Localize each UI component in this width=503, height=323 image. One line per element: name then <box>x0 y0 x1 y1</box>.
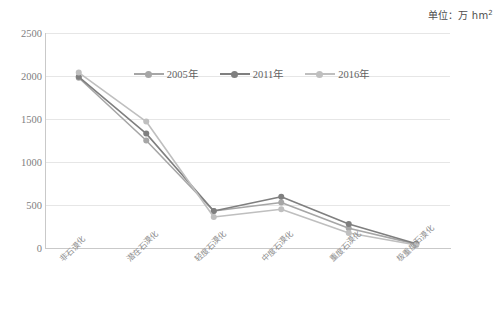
legend-item-2016年[interactable]: 2016年 <box>305 66 369 81</box>
data-point <box>278 206 284 212</box>
legend-label: 2016年 <box>338 66 369 81</box>
series-line <box>79 78 417 244</box>
legend: 2005年2011年2016年 <box>0 66 503 81</box>
legend-marker-icon <box>305 69 335 78</box>
data-point <box>143 131 149 137</box>
data-point <box>278 199 284 205</box>
y-axis-tick: 500 <box>2 200 42 211</box>
legend-marker-icon <box>134 69 164 78</box>
unit-superscript: 2 <box>488 9 493 17</box>
legend-label: 2011年 <box>253 66 284 81</box>
y-axis-tick: 0 <box>2 243 42 254</box>
unit-caption: 单位：万 hm2 <box>428 7 493 22</box>
unit-caption-text: 单位：万 hm <box>428 10 489 21</box>
legend-label: 2005年 <box>167 66 198 81</box>
data-point <box>278 194 284 200</box>
legend-item-2011年[interactable]: 2011年 <box>220 66 284 81</box>
legend-item-2005年[interactable]: 2005年 <box>134 66 198 81</box>
data-point <box>143 138 149 144</box>
series-line <box>79 77 417 244</box>
data-point <box>143 119 149 125</box>
y-axis-tick-labels: 25002000150010005000 <box>0 0 42 283</box>
y-axis-tick: 1500 <box>2 114 42 125</box>
data-point <box>211 214 217 220</box>
y-axis-tick: 1000 <box>2 157 42 168</box>
legend-marker-icon <box>220 69 250 78</box>
series-line <box>79 73 417 245</box>
x-axis-line <box>45 248 451 249</box>
line-chart: 单位：万 hm2 25002000150010005000 非石漠化潜在石漠化轻… <box>0 0 503 323</box>
y-axis-tick: 2500 <box>2 28 42 39</box>
data-point <box>346 221 352 227</box>
